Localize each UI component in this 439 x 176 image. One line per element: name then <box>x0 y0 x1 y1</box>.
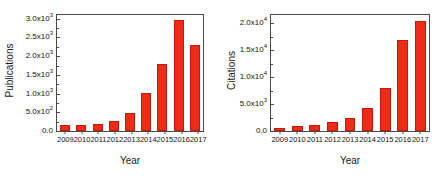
y-tick-mark <box>271 104 274 105</box>
x-tick-mark <box>98 131 99 134</box>
x-tick-publications-2012: 2012 <box>107 131 124 144</box>
y-tick-mark <box>57 56 60 57</box>
y-tick-mark <box>271 50 274 51</box>
bar-publications-2012 <box>109 121 119 131</box>
x-tick-mark <box>314 131 315 134</box>
y-minor-tick-mark <box>57 103 59 104</box>
bar-series-publications <box>57 15 203 131</box>
x-axis-ticks-citations: 200920102011201220132014201520162017 <box>271 131 429 144</box>
x-tick-mark <box>402 131 403 134</box>
y-tick-label: 1.5x103 <box>26 71 57 79</box>
x-tick-mark <box>279 131 280 134</box>
y-minor-tick-mark <box>271 64 273 65</box>
bar-series-citations <box>271 15 429 131</box>
bar-slot <box>171 15 187 131</box>
y-axis-label-citations: Citations <box>224 0 238 140</box>
y-tick-mark <box>271 77 274 78</box>
x-tick-mark <box>350 131 351 134</box>
x-tick-label: 2010 <box>74 136 91 144</box>
y-minor-tick-mark <box>271 118 273 119</box>
y-tick-mark <box>57 75 60 76</box>
x-tick-label: 2016 <box>173 136 190 144</box>
x-tick-citations-2016: 2016 <box>394 131 412 144</box>
bar-slot <box>341 15 359 131</box>
x-tick-publications-2015: 2015 <box>157 131 174 144</box>
x-axis-label-publications: Year <box>56 155 204 166</box>
x-tick-citations-2015: 2015 <box>376 131 394 144</box>
x-tick-label: 2011 <box>90 136 106 144</box>
bar-slot <box>154 15 170 131</box>
bar-citations-2012 <box>327 122 338 131</box>
bar-citations-2015 <box>380 88 391 131</box>
x-tick-label: 2009 <box>271 136 289 144</box>
bar-slot <box>138 15 154 131</box>
x-tick-label: 2014 <box>359 136 377 144</box>
x-tick-mark <box>148 131 149 134</box>
x-tick-publications-2017: 2017 <box>190 131 207 144</box>
x-tick-label: 2010 <box>289 136 307 144</box>
x-tick-mark <box>198 131 199 134</box>
bar-slot <box>187 15 203 131</box>
bar-publications-2016 <box>174 20 184 131</box>
bar-slot <box>271 15 289 131</box>
plot-area-publications: 200920102011201220132014201520162017 0.0… <box>56 14 204 132</box>
y-tick-label: 2.0x103 <box>26 52 57 60</box>
bar-slot <box>412 15 430 131</box>
x-tick-label: 2009 <box>57 136 74 144</box>
y-tick-label: 5.0x102 <box>26 108 57 116</box>
bar-slot <box>122 15 138 131</box>
y-minor-tick-mark <box>57 66 59 67</box>
bar-publications-2015 <box>157 64 167 131</box>
y-tick-label: 0.0 <box>42 127 57 135</box>
x-tick-citations-2009: 2009 <box>271 131 289 144</box>
chart-panel-citations: Citations 200920102011201220132014201520… <box>220 0 439 176</box>
x-tick-mark <box>114 131 115 134</box>
y-minor-tick-mark <box>57 84 59 85</box>
y-minor-tick-mark <box>271 91 273 92</box>
y-tick-label: 0.0 <box>256 127 271 135</box>
chart-panel-publications: Publications 200920102011201220132014201… <box>0 0 220 176</box>
bar-slot <box>73 15 89 131</box>
y-tick-label: 3.0x103 <box>26 15 57 23</box>
y-tick-mark <box>57 131 60 132</box>
bar-publications-2011 <box>93 124 103 131</box>
x-tick-mark <box>332 131 333 134</box>
x-tick-label: 2012 <box>107 136 124 144</box>
plot-area-citations: 200920102011201220132014201520162017 0.0… <box>270 14 430 132</box>
bar-slot <box>89 15 105 131</box>
bar-slot <box>376 15 394 131</box>
bar-publications-2014 <box>141 93 151 131</box>
x-tick-publications-2016: 2016 <box>173 131 190 144</box>
bar-slot <box>394 15 412 131</box>
bar-citations-2013 <box>345 118 356 131</box>
x-tick-mark <box>131 131 132 134</box>
y-tick-label: 2.5x103 <box>26 33 57 41</box>
y-tick-mark <box>57 112 60 113</box>
x-tick-citations-2017: 2017 <box>412 131 430 144</box>
y-tick-label: 1.0x104 <box>240 73 271 81</box>
x-tick-label: 2017 <box>412 136 430 144</box>
x-tick-citations-2011: 2011 <box>306 131 324 144</box>
y-minor-tick-mark <box>57 28 59 29</box>
y-tick-label: 1.0x103 <box>26 90 57 98</box>
bar-citations-2017 <box>415 21 426 131</box>
x-tick-citations-2014: 2014 <box>359 131 377 144</box>
bar-citations-2014 <box>362 108 373 131</box>
x-tick-mark <box>82 131 83 134</box>
x-tick-publications-2014: 2014 <box>140 131 157 144</box>
x-tick-label: 2013 <box>341 136 359 144</box>
bar-citations-2016 <box>397 40 408 131</box>
x-tick-label: 2015 <box>376 136 394 144</box>
x-tick-label: 2016 <box>394 136 412 144</box>
x-tick-mark <box>181 131 182 134</box>
x-tick-label: 2017 <box>190 136 207 144</box>
y-minor-tick-mark <box>57 47 59 48</box>
x-tick-mark <box>297 131 298 134</box>
y-tick-mark <box>57 37 60 38</box>
y-tick-mark <box>57 94 60 95</box>
x-tick-publications-2009: 2009 <box>57 131 74 144</box>
y-tick-mark <box>271 23 274 24</box>
x-tick-citations-2013: 2013 <box>341 131 359 144</box>
bar-slot <box>306 15 324 131</box>
x-tick-label: 2013 <box>123 136 140 144</box>
